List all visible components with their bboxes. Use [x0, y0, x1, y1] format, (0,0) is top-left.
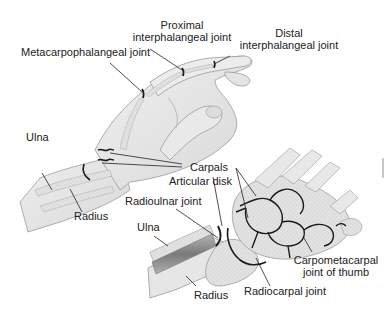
label-line: Distal — [226, 27, 352, 39]
label-radius-lower: Radius — [194, 289, 228, 301]
label-radius-upper: Radius — [74, 210, 108, 222]
label-line: Carpals — [190, 161, 228, 173]
label-line: Radius — [74, 210, 108, 222]
label-line: Radioulnar joint — [125, 195, 201, 207]
label-radioulnar-joint: Radioulnar joint — [125, 195, 201, 207]
anatomy-diagram: Proximal interphalangeal joint Distal in… — [0, 0, 387, 316]
label-radiocarpal-joint: Radiocarpal joint — [244, 285, 326, 297]
label-line: Radius — [194, 289, 228, 301]
label-line: Ulna — [137, 221, 160, 233]
label-carpometacarpal-joint-of-thumb: Carpometacarpal joint of thumb — [286, 254, 386, 278]
label-line: interphalangeal joint — [226, 39, 352, 51]
label-line: joint of thumb — [286, 266, 386, 278]
label-line: Carpometacarpal — [286, 254, 386, 266]
label-line: Articular disk — [169, 175, 232, 187]
label-metacarpophalangeal-joint: Metacarpophalangeal joint — [21, 46, 150, 58]
label-ulna-upper: Ulna — [26, 131, 49, 143]
label-articular-disk: Articular disk — [169, 175, 232, 187]
label-line: Radiocarpal joint — [244, 285, 326, 297]
label-distal-interphalangeal-joint: Distal interphalangeal joint — [226, 27, 352, 51]
label-carpals: Carpals — [190, 161, 228, 173]
label-line: Metacarpophalangeal joint — [21, 46, 150, 58]
label-line: Ulna — [26, 131, 49, 143]
label-ulna-lower: Ulna — [137, 221, 160, 233]
